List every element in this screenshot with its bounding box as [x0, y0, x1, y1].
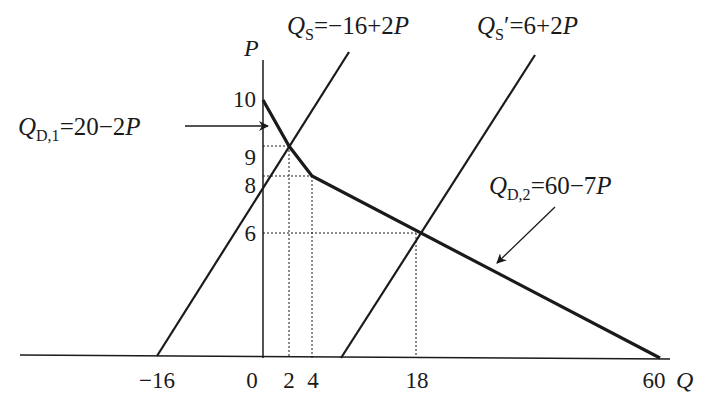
qd1-label-q: Q — [18, 113, 36, 140]
q-axis — [20, 355, 670, 359]
demand-curve-kinked — [263, 100, 660, 358]
p-tick-6: 6 — [245, 221, 257, 246]
qs-label: QS=−16+2P — [287, 12, 409, 43]
q-axis-label: Q — [676, 367, 693, 393]
q-tick-18: 18 — [406, 368, 429, 393]
p-tick-10: 10 — [233, 87, 256, 112]
q-tick-0: 0 — [246, 368, 258, 393]
p-axis-label: P — [243, 35, 259, 61]
qd2-arrow — [497, 207, 555, 263]
reference-lines — [263, 146, 416, 358]
qd1-label-p: P — [124, 113, 140, 140]
qd1-label: QD,1=20−2P — [18, 113, 141, 144]
qs-label-sub: S — [305, 26, 314, 43]
q-tick-neg16: −16 — [139, 368, 175, 393]
p-tick-9: 9 — [245, 145, 257, 170]
qs-label-eq: =−16+2 — [314, 12, 394, 39]
qd2-label: QD,2=60−7P — [489, 172, 612, 203]
qs-prime-label-eq: ′=6+2 — [504, 12, 563, 39]
qs-prime-label-p: P — [562, 12, 578, 39]
p-tick-8: 8 — [245, 173, 257, 198]
q-tick-2: 2 — [283, 368, 295, 393]
qd1-label-sub: D,1 — [36, 127, 60, 144]
qs-prime-label-q: Q — [477, 12, 495, 39]
axes — [20, 60, 670, 359]
qs-label-p: P — [393, 12, 409, 39]
qd2-label-sub: D,2 — [507, 186, 531, 203]
qd2-label-p: P — [595, 172, 611, 199]
qs-prime-label: QS′=6+2P — [477, 12, 578, 43]
qd2-label-eq: =60−7 — [531, 172, 597, 199]
qs-label-q: Q — [287, 12, 305, 39]
q-tick-60: 60 — [643, 368, 666, 393]
qd1-label-eq: =20−2 — [60, 113, 126, 140]
q-tick-4: 4 — [307, 368, 319, 393]
qd2-label-q: Q — [489, 172, 507, 199]
qs-prime-label-sub: S — [495, 26, 504, 43]
supply-demand-chart: P Q −16 0 2 4 18 60 10 9 8 6 QS=−16+2P Q… — [0, 0, 715, 413]
